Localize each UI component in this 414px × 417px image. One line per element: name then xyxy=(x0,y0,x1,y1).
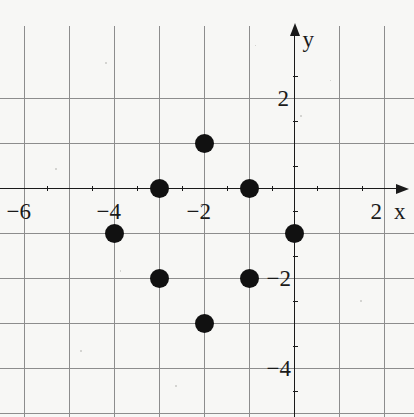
y-tick-label: −4 xyxy=(267,357,291,380)
y-axis-minor-tick xyxy=(293,256,298,257)
x-axis-minor-tick xyxy=(92,186,93,191)
grid-line-horizontal xyxy=(0,278,414,279)
y-axis-minor-tick xyxy=(293,346,298,347)
y-axis-minor-tick xyxy=(293,301,298,302)
x-axis-minor-tick xyxy=(47,186,48,191)
x-axis-minor-tick xyxy=(272,186,273,191)
grid-line-vertical xyxy=(69,26,70,417)
y-tick-label: −2 xyxy=(267,267,291,290)
x-axis-minor-tick xyxy=(182,186,183,191)
data-point xyxy=(240,179,259,198)
data-point xyxy=(285,224,304,243)
grid-line-vertical xyxy=(159,26,160,417)
texture-speck xyxy=(55,168,57,170)
grid-line-horizontal xyxy=(0,98,414,99)
grid-line-horizontal xyxy=(0,233,414,234)
y-axis-minor-tick xyxy=(293,211,298,212)
texture-speck xyxy=(80,350,82,352)
data-point xyxy=(195,134,214,153)
data-point xyxy=(240,269,259,288)
y-axis-label: y xyxy=(303,28,315,51)
y-axis-minor-tick xyxy=(293,121,298,122)
grid-line-vertical xyxy=(249,26,250,417)
data-point xyxy=(195,314,214,333)
texture-speck xyxy=(200,205,202,206)
y-axis-minor-tick xyxy=(293,391,298,392)
grid-line-horizontal xyxy=(0,413,414,414)
x-tick-label: 2 xyxy=(371,200,383,223)
data-point xyxy=(150,179,169,198)
y-tick-label: 2 xyxy=(278,87,290,110)
grid-line-horizontal xyxy=(0,368,414,369)
x-axis-label: x xyxy=(394,200,406,223)
texture-speck xyxy=(360,300,362,302)
texture-speck xyxy=(105,62,107,64)
coordinate-plane-figure: −6−4−222−2−4 x y xyxy=(0,0,414,417)
texture-speck xyxy=(300,115,302,117)
x-tick-label: −2 xyxy=(187,200,211,223)
y-axis-arrow-icon xyxy=(290,23,300,36)
texture-speck xyxy=(120,270,121,272)
x-tick-label: −6 xyxy=(7,200,31,223)
x-axis-line xyxy=(0,188,400,189)
x-axis-minor-tick xyxy=(362,186,363,191)
x-tick-label: −4 xyxy=(97,200,121,223)
grid-line-vertical xyxy=(339,26,340,417)
x-axis-minor-tick xyxy=(317,186,318,191)
y-axis-minor-tick xyxy=(293,166,298,167)
grid-line-vertical xyxy=(384,26,385,417)
data-point xyxy=(150,269,169,288)
x-axis-arrow-icon xyxy=(396,184,409,194)
texture-speck xyxy=(330,80,331,81)
texture-speck xyxy=(175,385,177,387)
x-axis-minor-tick xyxy=(137,186,138,191)
x-axis-minor-tick xyxy=(227,186,228,191)
y-axis-minor-tick xyxy=(293,76,298,77)
data-point xyxy=(105,224,124,243)
texture-speck xyxy=(255,45,256,46)
